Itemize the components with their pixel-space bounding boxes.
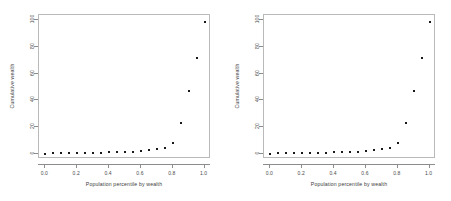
y-axis-title-label: Cumulative wealth bbox=[235, 64, 241, 109]
y-axis-tick-label: 80 bbox=[29, 43, 35, 49]
x-axis-title: Population percentile by wealth bbox=[263, 181, 435, 187]
data-point bbox=[148, 149, 150, 151]
x-axis-tick bbox=[44, 164, 45, 168]
data-point bbox=[188, 90, 190, 92]
y-axis-title: Cumulative wealth bbox=[233, 14, 242, 158]
data-point bbox=[44, 153, 46, 155]
x-axis-tick-label: 0.2 bbox=[298, 170, 305, 176]
y-axis-title: Cumulative wealth bbox=[8, 14, 17, 158]
x-axis-tick-label: 0.6 bbox=[361, 170, 368, 176]
data-point bbox=[341, 151, 343, 153]
data-point bbox=[140, 150, 142, 152]
x-axis-tick-label: 0.8 bbox=[168, 170, 175, 176]
y-axis-tick-label: 20 bbox=[29, 123, 35, 129]
data-point bbox=[164, 147, 166, 149]
y-axis-tick-label: 100 bbox=[254, 15, 260, 24]
data-point bbox=[76, 152, 78, 154]
y-axis-tick-label: 60 bbox=[254, 70, 260, 76]
x-axis-tick-label: 0.4 bbox=[329, 170, 336, 176]
x-axis-tick bbox=[172, 164, 173, 168]
data-point bbox=[333, 151, 335, 153]
data-point bbox=[180, 122, 182, 124]
data-point bbox=[108, 151, 110, 153]
x-axis-line bbox=[263, 164, 435, 165]
data-point bbox=[132, 151, 134, 153]
x-axis-tick-label: 1.0 bbox=[200, 170, 207, 176]
data-point bbox=[68, 152, 70, 154]
x-axis-tick-label: 0.2 bbox=[73, 170, 80, 176]
x-axis-tick-label: 1.0 bbox=[425, 170, 432, 176]
y-axis-ticks: 020406080100 bbox=[30, 14, 38, 158]
data-point bbox=[204, 21, 206, 23]
data-point bbox=[373, 149, 375, 151]
figure-canvas: Cumulative wealth 020406080100 0.00.20.4… bbox=[0, 0, 451, 201]
data-point bbox=[92, 152, 94, 154]
y-axis-ticks: 020406080100 bbox=[255, 14, 263, 158]
y-axis-tick-label: 0 bbox=[29, 151, 35, 154]
x-axis-tick bbox=[204, 164, 205, 168]
data-point bbox=[293, 152, 295, 154]
data-point bbox=[116, 151, 118, 153]
data-point bbox=[349, 151, 351, 153]
x-axis-tick-label: 0.0 bbox=[266, 170, 273, 176]
x-axis-tick-label: 0.8 bbox=[393, 170, 400, 176]
data-point bbox=[285, 152, 287, 154]
chart-panel-left: Cumulative wealth 020406080100 0.00.20.4… bbox=[0, 0, 225, 201]
data-point bbox=[309, 152, 311, 154]
data-point bbox=[84, 152, 86, 154]
y-axis-tick-label: 40 bbox=[254, 96, 260, 102]
x-axis-tick bbox=[429, 164, 430, 168]
x-axis-line bbox=[38, 164, 210, 165]
x-axis-tick bbox=[76, 164, 77, 168]
x-axis-tick bbox=[301, 164, 302, 168]
plot-area bbox=[263, 14, 435, 158]
data-point bbox=[196, 57, 198, 59]
data-point bbox=[60, 152, 62, 154]
y-axis-tick-label: 40 bbox=[29, 96, 35, 102]
data-point bbox=[365, 150, 367, 152]
data-point bbox=[325, 152, 327, 154]
data-point bbox=[397, 142, 399, 144]
data-point bbox=[52, 152, 54, 154]
data-point bbox=[317, 152, 319, 154]
chart-panel-right: Cumulative wealth 020406080100 0.00.20.4… bbox=[225, 0, 450, 201]
x-axis-tick-label: 0.0 bbox=[41, 170, 48, 176]
y-axis-tick-label: 60 bbox=[29, 70, 35, 76]
x-axis-tick bbox=[365, 164, 366, 168]
x-axis-tick-label: 0.4 bbox=[104, 170, 111, 176]
data-point bbox=[389, 147, 391, 149]
x-axis: 0.00.20.40.60.81.0 bbox=[263, 164, 435, 174]
x-axis-tick bbox=[397, 164, 398, 168]
data-point bbox=[421, 57, 423, 59]
data-point bbox=[357, 151, 359, 153]
data-point bbox=[172, 142, 174, 144]
y-axis-tick-label: 100 bbox=[29, 15, 35, 24]
data-point bbox=[156, 148, 158, 150]
x-axis-title: Population percentile by wealth bbox=[38, 181, 210, 187]
data-point bbox=[269, 153, 271, 155]
plot-area bbox=[38, 14, 210, 158]
x-axis-tick-label: 0.6 bbox=[136, 170, 143, 176]
data-point bbox=[405, 122, 407, 124]
x-axis-tick bbox=[269, 164, 270, 168]
x-axis-tick bbox=[333, 164, 334, 168]
y-axis-tick-label: 20 bbox=[254, 123, 260, 129]
x-axis-tick bbox=[108, 164, 109, 168]
y-axis-tick-label: 80 bbox=[254, 43, 260, 49]
x-axis-tick bbox=[140, 164, 141, 168]
x-axis: 0.00.20.40.60.81.0 bbox=[38, 164, 210, 174]
data-point bbox=[381, 148, 383, 150]
data-point bbox=[429, 21, 431, 23]
data-point bbox=[124, 151, 126, 153]
y-axis-title-label: Cumulative wealth bbox=[10, 64, 16, 109]
data-point bbox=[301, 152, 303, 154]
data-point bbox=[413, 90, 415, 92]
data-point bbox=[100, 152, 102, 154]
data-point bbox=[277, 152, 279, 154]
y-axis-tick-label: 0 bbox=[254, 151, 260, 154]
